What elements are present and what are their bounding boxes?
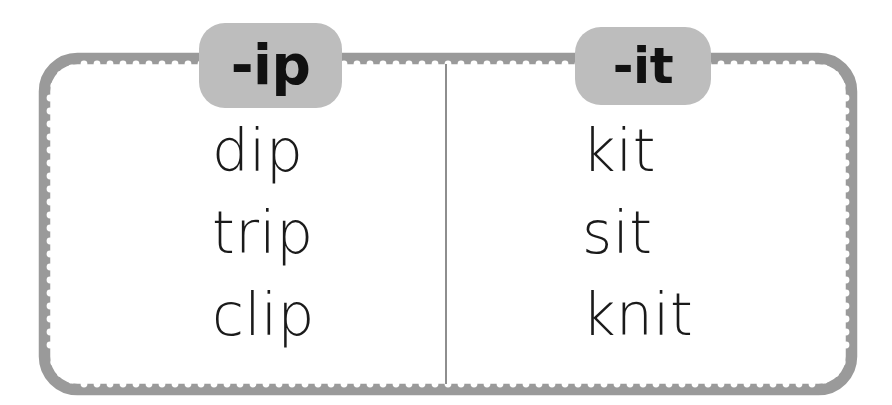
column-header-it-label: -it [613,41,673,91]
column-header-it: -it [575,27,711,105]
word-column-it: kit sit knit [560,122,820,368]
word-item: knit [560,286,820,368]
word-column-ip: dip trip clip [190,122,450,368]
worksheet-canvas: -ip -it dip trip clip kit sit knit [0,0,892,405]
word-item: sit [560,204,820,286]
column-header-ip-label: -ip [231,38,311,93]
word-item: kit [560,122,820,204]
word-item: clip [190,286,450,368]
word-item: dip [190,122,450,204]
column-header-ip: -ip [199,23,342,108]
word-item: trip [190,204,450,286]
